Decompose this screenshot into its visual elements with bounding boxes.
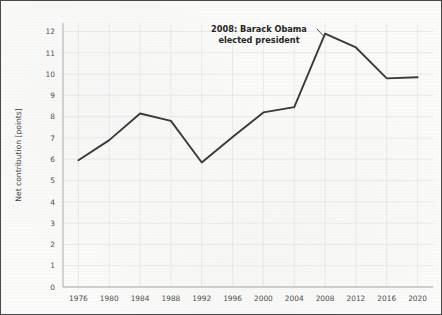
annotation-label-line2: elected president bbox=[218, 35, 299, 45]
y-axis-title: Net contribution [points] bbox=[14, 108, 23, 201]
y-tick-label: 7 bbox=[50, 134, 55, 143]
y-tick-label: 1 bbox=[50, 261, 55, 270]
x-tick-label: 2020 bbox=[408, 294, 427, 303]
y-tick-label: 3 bbox=[50, 219, 55, 228]
x-tick-label: 1976 bbox=[69, 294, 88, 303]
x-tick-label: 2008 bbox=[316, 294, 335, 303]
x-tick-label: 1984 bbox=[131, 294, 150, 303]
annotation-label-line1: 2008: Barack Obama bbox=[211, 24, 307, 34]
x-tick-label: 2012 bbox=[347, 294, 366, 303]
x-tick-label: 1992 bbox=[192, 294, 211, 303]
x-tick-label: 2000 bbox=[254, 294, 273, 303]
annotation-leader-line bbox=[317, 29, 323, 36]
y-tick-labels-group: 0123456789101112 bbox=[46, 27, 56, 291]
gridlines-group bbox=[63, 23, 433, 287]
y-tick-label: 6 bbox=[50, 155, 55, 164]
chart-figure: 0123456789101112 19761980198419881992199… bbox=[0, 0, 442, 315]
y-tick-label: 0 bbox=[50, 283, 55, 292]
y-tick-label: 10 bbox=[46, 70, 56, 79]
y-tick-label: 5 bbox=[50, 176, 55, 185]
x-tick-labels-group: 1976198019841988199219962000200420082012… bbox=[69, 294, 427, 303]
x-tick-label: 2016 bbox=[377, 294, 396, 303]
line-chart-plot: 0123456789101112 19761980198419881992199… bbox=[1, 1, 442, 315]
y-tick-label: 2 bbox=[50, 240, 55, 249]
axes-group bbox=[63, 23, 433, 287]
y-tick-label: 8 bbox=[50, 112, 55, 121]
y-tick-label: 4 bbox=[50, 198, 55, 207]
x-tick-label: 1996 bbox=[223, 294, 242, 303]
x-tick-label: 1988 bbox=[162, 294, 181, 303]
y-tick-label: 12 bbox=[46, 27, 55, 36]
y-tick-label: 9 bbox=[50, 91, 55, 100]
annotation-group: 2008: Barack Obamaelected president bbox=[211, 24, 323, 45]
x-tick-label: 1980 bbox=[100, 294, 119, 303]
y-tick-label: 11 bbox=[46, 49, 56, 58]
x-tick-label: 2004 bbox=[285, 294, 304, 303]
